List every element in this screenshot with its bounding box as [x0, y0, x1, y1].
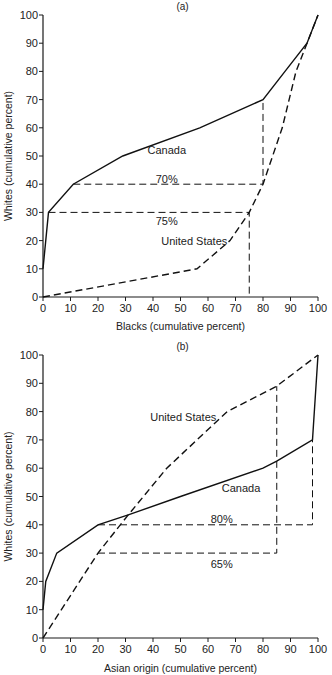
x-tick-label: 40	[147, 643, 159, 655]
x-tick-label: 80	[257, 643, 269, 655]
x-tick-label: 70	[229, 643, 241, 655]
x-tick-label: 20	[92, 643, 104, 655]
x-tick-label: 100	[309, 643, 327, 655]
x-tick-label: 0	[40, 643, 46, 655]
y-tick-label: 60	[26, 462, 38, 474]
guide-line-80pct	[98, 440, 313, 525]
x-tick-label: 90	[284, 302, 296, 314]
y-tick-label: 100	[20, 349, 38, 361]
annotation-label: United States	[150, 411, 217, 423]
x-axis-label: Blacks (cumulative percent)	[116, 320, 245, 332]
x-tick-label: 30	[119, 643, 131, 655]
y-tick-label: 0	[32, 632, 38, 644]
x-tick-label: 60	[202, 302, 214, 314]
annotation-label: 70%	[156, 173, 178, 185]
x-tick-label: 60	[202, 643, 214, 655]
guide-line-75pct	[49, 212, 250, 297]
y-tick-label: 0	[32, 291, 38, 303]
x-tick-label: 70	[229, 302, 241, 314]
y-tick-label: 20	[26, 235, 38, 247]
y-tick-label: 30	[26, 206, 38, 218]
y-tick-label: 90	[26, 37, 38, 49]
panel-a-chart: (a)0102030405060708090100010203040506070…	[2, 1, 327, 332]
x-tick-label: 50	[174, 302, 186, 314]
y-tick-label: 90	[26, 377, 38, 389]
annotation-label: Canada	[147, 144, 186, 156]
annotation-label: 65%	[211, 558, 233, 570]
y-tick-label: 40	[26, 519, 38, 531]
annotation-label: Canada	[222, 482, 261, 494]
x-tick-label: 80	[257, 302, 269, 314]
panel-b-chart: (b)0102030405060708090100010203040506070…	[2, 341, 327, 674]
x-axis-label: Asian origin (cumulative percent)	[104, 662, 257, 674]
y-tick-label: 10	[26, 604, 38, 616]
x-tick-label: 30	[119, 302, 131, 314]
series-line-canada	[43, 355, 318, 610]
y-tick-label: 10	[26, 263, 38, 275]
panel-label: (b)	[176, 341, 188, 352]
y-tick-label: 80	[26, 65, 38, 77]
y-tick-label: 100	[20, 9, 38, 21]
panel-label: (a)	[176, 1, 188, 12]
x-tick-label: 40	[147, 302, 159, 314]
annotation-label: United States	[161, 235, 228, 247]
x-tick-label: 10	[64, 302, 76, 314]
y-tick-label: 70	[26, 94, 38, 106]
y-tick-label: 20	[26, 575, 38, 587]
x-tick-label: 100	[309, 302, 327, 314]
x-tick-label: 10	[64, 643, 76, 655]
figure: (a)0102030405060708090100010203040506070…	[0, 0, 332, 675]
y-tick-label: 40	[26, 178, 38, 190]
y-tick-label: 80	[26, 406, 38, 418]
x-tick-label: 0	[40, 302, 46, 314]
x-tick-label: 90	[284, 643, 296, 655]
y-tick-label: 50	[26, 491, 38, 503]
y-tick-label: 60	[26, 122, 38, 134]
y-axis-label: Whites (cumulative percent)	[2, 91, 14, 221]
x-tick-label: 20	[92, 302, 104, 314]
annotation-label: 80%	[211, 513, 233, 525]
annotation-label: 75%	[156, 215, 178, 227]
x-tick-label: 50	[174, 643, 186, 655]
y-tick-label: 70	[26, 434, 38, 446]
y-tick-label: 30	[26, 547, 38, 559]
y-tick-label: 50	[26, 150, 38, 162]
y-axis-label: Whites (cumulative percent)	[2, 431, 14, 561]
